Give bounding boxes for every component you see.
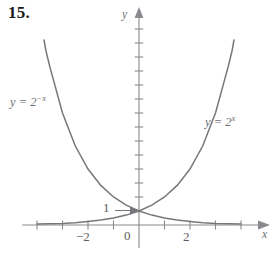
curve-label-right-exponent: x: [231, 113, 235, 123]
y-intercept-arrowhead: [130, 207, 139, 215]
x-tick-label-pos2: 2: [183, 229, 190, 245]
curve-label-left: y = 2−x: [10, 93, 46, 110]
curve-label-left-exponent: −x: [36, 93, 46, 103]
x-axis-label: x: [262, 228, 267, 240]
figure-page: 15.: [0, 0, 276, 256]
x-tick-label-neg2: −2: [76, 229, 90, 245]
curve-label-right: y = 2x: [205, 113, 235, 130]
curve-label-right-base: y = 2: [205, 115, 231, 129]
curve-label-left-base: y = 2: [10, 95, 36, 109]
y-axis-arrowhead: [135, 7, 144, 18]
y-intercept-label: 1: [103, 200, 110, 216]
origin-label: 0: [124, 228, 131, 244]
y-axis-label: y: [122, 8, 127, 20]
